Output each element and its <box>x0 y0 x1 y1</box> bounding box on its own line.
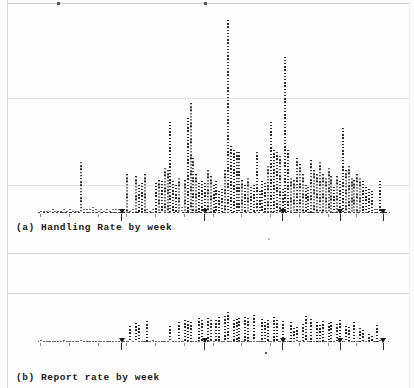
bar <box>178 178 180 213</box>
bar <box>169 326 171 342</box>
bar <box>316 322 318 342</box>
bar <box>330 322 332 342</box>
bar <box>284 57 286 213</box>
bar <box>273 150 275 213</box>
bar <box>342 128 344 213</box>
bar <box>198 183 200 213</box>
rule-gridline-b <box>7 293 409 294</box>
axis-minor-tick <box>155 343 156 346</box>
axis-minor-tick <box>98 214 99 217</box>
scan-speck <box>268 238 270 240</box>
axis-minor-tick <box>40 343 41 346</box>
bar <box>146 321 148 342</box>
axis-minor-tick <box>155 214 156 217</box>
bar <box>319 162 321 213</box>
bar <box>218 191 220 213</box>
bar <box>261 181 263 213</box>
bar <box>215 320 217 342</box>
figure-b-caption: (b) Report rate by week <box>16 372 160 383</box>
bar <box>129 326 131 342</box>
axis-tick-stem <box>383 214 384 221</box>
bar <box>353 322 355 342</box>
bar <box>290 322 292 342</box>
axis-tick-stem <box>204 343 205 350</box>
bar <box>316 174 318 213</box>
axis-tick-stem <box>340 343 341 350</box>
chart-b-plot-area <box>40 302 385 342</box>
bar <box>287 150 289 213</box>
bar <box>247 318 249 342</box>
axis-minor-tick <box>356 343 357 346</box>
bar <box>330 176 332 213</box>
chart-a-plot-area <box>40 16 385 213</box>
bar <box>167 170 169 213</box>
bar <box>126 174 128 213</box>
axis-minor-tick <box>270 214 271 217</box>
axis-minor-tick <box>184 343 185 346</box>
bar <box>270 122 272 213</box>
bar <box>362 181 364 213</box>
axis-minor-tick <box>356 214 357 217</box>
bar <box>328 168 330 213</box>
bar <box>310 319 312 342</box>
bar <box>207 170 209 213</box>
rule-between-figures <box>7 253 409 254</box>
bar <box>138 325 140 342</box>
bar <box>190 322 192 342</box>
axis-minor-tick <box>184 214 185 217</box>
bar <box>267 320 269 342</box>
bar <box>333 187 335 213</box>
axis-tick-stem <box>121 343 122 350</box>
bar <box>319 325 321 342</box>
axis-tick-stem <box>282 214 283 221</box>
bar <box>267 166 269 213</box>
axis-tick-stem <box>282 343 283 350</box>
chart-b-bars <box>40 302 385 342</box>
axis-tick-stem <box>383 343 384 350</box>
bar <box>296 327 298 342</box>
bar <box>158 180 160 213</box>
bar <box>218 317 220 342</box>
bar <box>247 178 249 213</box>
scan-speck <box>204 2 207 5</box>
bar <box>305 185 307 213</box>
bar <box>351 178 353 213</box>
bar <box>353 180 355 213</box>
bar <box>178 322 180 342</box>
bar <box>279 156 281 213</box>
bar <box>253 315 255 342</box>
bar <box>233 320 235 342</box>
axis-minor-tick <box>241 214 242 217</box>
bar <box>368 189 370 213</box>
bar <box>371 191 373 213</box>
scan-speck <box>265 352 267 354</box>
bar <box>293 328 295 342</box>
axis-minor-tick <box>299 343 300 346</box>
axis-minor-tick <box>69 343 70 346</box>
bar <box>302 324 304 342</box>
bar <box>359 328 361 342</box>
bar <box>190 103 192 213</box>
axis-minor-tick <box>69 214 70 217</box>
bar <box>293 180 295 213</box>
bar <box>184 320 186 342</box>
page-left-edge <box>7 0 8 388</box>
axis-minor-tick <box>126 214 127 217</box>
axis-minor-tick <box>40 214 41 217</box>
bar <box>253 185 255 213</box>
rule-top <box>7 3 409 4</box>
bar <box>365 187 367 213</box>
bar <box>224 316 226 342</box>
bar <box>345 170 347 213</box>
bar <box>276 152 278 213</box>
bar <box>161 181 163 213</box>
bar <box>236 319 238 342</box>
bar <box>238 152 240 213</box>
bar <box>172 181 174 213</box>
axis-minor-tick <box>299 214 300 217</box>
bar <box>169 122 171 213</box>
axis-minor-tick <box>328 214 329 217</box>
bar <box>144 174 146 213</box>
axis-minor-tick <box>241 343 242 346</box>
bar <box>299 164 301 213</box>
